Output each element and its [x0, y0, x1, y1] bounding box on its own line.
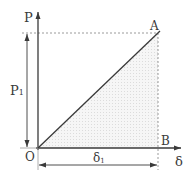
p1-label: P1	[10, 83, 24, 98]
y-axis-label: P	[24, 10, 33, 25]
origin-label: O	[25, 150, 35, 164]
point-a-label: A	[149, 19, 159, 33]
point-b-label: B	[161, 134, 170, 148]
load-displacement-diagram: P δ A B O P1 δ1	[0, 0, 196, 182]
x-axis-label: δ	[175, 154, 183, 169]
delta1-label: δ1	[93, 151, 105, 165]
